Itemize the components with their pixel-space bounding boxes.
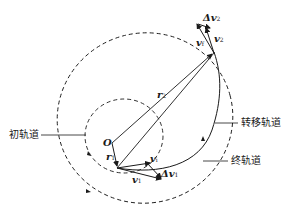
v1-subscript: 1 xyxy=(138,177,142,184)
v2-label: v2 xyxy=(214,34,224,44)
vf-label: vf xyxy=(196,38,204,48)
r2-label: r2 xyxy=(157,90,166,100)
vf-subscript: f xyxy=(202,40,204,47)
origin-label: O xyxy=(103,138,112,148)
orbit-transfer-diagram: O r1 r2 v1 vi Δv1 v2 vf Δv2 初轨道 转移轨道 终轨道 xyxy=(0,0,294,216)
dv2-symbol: Δv xyxy=(203,12,217,23)
transfer-orbit-label: 转移轨道 xyxy=(241,118,281,128)
final-orbit-label: 终轨道 xyxy=(231,156,261,166)
dv2-subscript: 2 xyxy=(217,15,221,22)
r1-label: r1 xyxy=(106,152,115,162)
transfer-orbit xyxy=(117,52,220,170)
v2-subscript: 2 xyxy=(220,36,224,43)
dv1-symbol: Δv xyxy=(161,168,175,179)
initial-orbit-label: 初轨道 xyxy=(9,130,39,140)
final-orbit-direction-arrow xyxy=(86,189,91,193)
initial-orbit-direction-arrow xyxy=(87,151,91,156)
dv1-subscript: 1 xyxy=(175,171,179,178)
r1-subscript: 1 xyxy=(111,154,115,161)
dv1-label: Δv1 xyxy=(161,169,178,179)
v1-label: v1 xyxy=(132,175,142,185)
vi-subscript: i xyxy=(156,156,158,163)
transfer-orbit-direction-arrow xyxy=(201,136,205,141)
r2-subscript: 2 xyxy=(162,92,166,99)
vi-label: vi xyxy=(150,154,158,164)
dv2-vector xyxy=(198,24,210,28)
dv2-label: Δv2 xyxy=(203,13,220,23)
diagram-graphics xyxy=(0,0,294,216)
